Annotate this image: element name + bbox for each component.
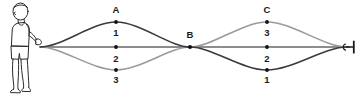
axis-dot-right	[265, 45, 269, 49]
antinode-dot-upper-right	[265, 20, 269, 24]
axis-dot-left	[114, 45, 118, 49]
antinode-label-right: C	[264, 4, 271, 15]
antinode-dot-lower-right	[265, 68, 269, 72]
person-neck-icon-back	[24, 19, 25, 22]
person-leg-front-icon	[13, 59, 14, 89]
person-foot-rear-icon	[22, 88, 31, 92]
person-shorts-icon	[11, 46, 28, 59]
person-figure	[10, 3, 41, 93]
marker-label-left-1: 1	[113, 27, 119, 38]
antinode-dot-lower-left	[114, 68, 118, 72]
person-ear-icon	[14, 12, 15, 15]
antinode-label-left: A	[113, 4, 120, 15]
figure-canvas: A 1 2 3 B C 3 2 1	[0, 0, 362, 97]
person-leg-rear-icon	[21, 59, 24, 88]
person-leg-front-back-icon	[18, 59, 19, 89]
node-label-center: B	[187, 29, 194, 40]
marker-label-right-2: 2	[264, 53, 269, 64]
person-shirt-icon	[11, 23, 29, 47]
standing-wave-figure: A 1 2 3 B C 3 2 1	[0, 0, 362, 97]
marker-label-left-3: 3	[113, 74, 118, 85]
antinode-dot-upper-left	[114, 20, 118, 24]
marker-label-right-1: 1	[264, 74, 270, 85]
person-foot-front-icon	[10, 89, 20, 93]
node-dot-center	[188, 45, 192, 49]
rope-curve-light-phase	[40, 22, 347, 70]
marker-label-right-3: 3	[264, 27, 269, 38]
person-leg-rear-back-icon	[27, 59, 29, 88]
marker-label-left-2: 2	[113, 53, 118, 64]
